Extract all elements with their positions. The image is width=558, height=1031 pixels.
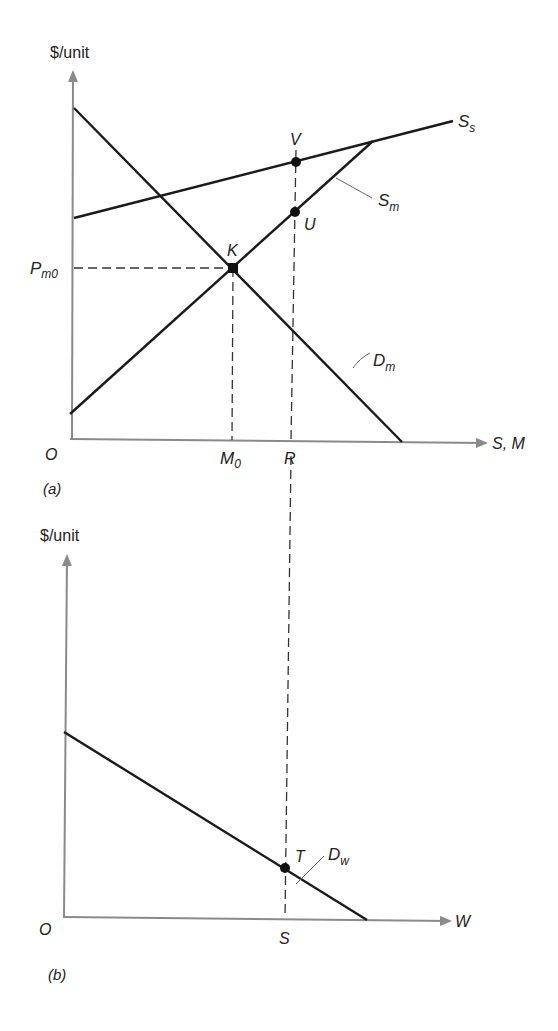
point-k-marker [228, 263, 238, 273]
panel-b-caption: (b) [48, 966, 66, 983]
panel-a-x-axis-label: S, M [492, 435, 526, 452]
point-v-label: V [290, 131, 302, 148]
r-guide-line [291, 150, 296, 440]
point-k-label: K [227, 242, 239, 259]
quantity-r-label: R [284, 450, 296, 467]
supply-m-leader [336, 178, 372, 198]
quantity-m0-label: M0 [220, 449, 241, 471]
point-u-marker [290, 207, 300, 217]
point-t-marker [280, 863, 290, 873]
supply-m-curve [70, 141, 373, 414]
panel-a: $/unit S, M O Ss Sm Dm K U V [30, 44, 526, 918]
panel-b-x-axis-label: W [455, 913, 472, 930]
panel-b-y-axis-label: $/unit [40, 527, 80, 544]
panel-a-origin-label: O [45, 446, 57, 463]
supply-m-label: Sm [378, 191, 399, 214]
panel-b-x-axis [64, 917, 450, 921]
supply-s-label: Ss [458, 112, 475, 135]
demand-w-curve [64, 732, 367, 920]
point-u-label: U [304, 216, 316, 233]
panel-a-y-axis-label: $/unit [50, 44, 90, 61]
panel-b: $/unit W O Dw T S (b) [39, 527, 472, 983]
quantity-s-label: S [279, 930, 290, 947]
point-t-label: T [295, 848, 306, 865]
panel-a-x-axis [70, 439, 486, 443]
panel-a-caption: (a) [43, 480, 61, 497]
two-panel-economics-diagram: $/unit S, M O Ss Sm Dm K U V [0, 0, 558, 1031]
m0-guide-line [232, 268, 233, 440]
price-pm0-label: Pm0 [30, 259, 58, 281]
panel-a-y-axis [72, 72, 73, 440]
demand-w-label: Dw [328, 845, 350, 868]
demand-m-leader [353, 353, 370, 368]
panel-b-origin-label: O [39, 921, 51, 938]
demand-m-label: Dm [373, 351, 395, 374]
panel-b-y-axis [64, 556, 67, 918]
point-v-marker [291, 157, 301, 167]
r-to-s-connector-line [285, 456, 291, 918]
